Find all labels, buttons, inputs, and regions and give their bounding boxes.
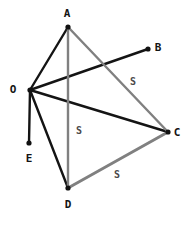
- node-dot-c: [165, 129, 170, 134]
- node-label-b: B: [155, 42, 162, 53]
- node-dot-e: [26, 140, 31, 145]
- edge-o-a: [30, 27, 68, 90]
- edge-o-d: [30, 90, 68, 188]
- node-label-d: D: [65, 199, 72, 210]
- edge-label-a-d: S: [76, 126, 82, 136]
- node-dot-o: [27, 87, 32, 92]
- edge-label-d-c: S: [114, 170, 120, 180]
- node-dot-a: [65, 24, 70, 29]
- edge-o-e: [29, 90, 30, 143]
- node-label-e: E: [26, 153, 33, 164]
- node-label-c: C: [174, 127, 181, 138]
- node-label-a: A: [64, 8, 71, 19]
- graph-diagram: ABCDEO SSS: [0, 0, 184, 225]
- node-dot-d: [65, 185, 70, 190]
- node-dot-b: [145, 46, 150, 51]
- nodes-layer: [26, 24, 170, 190]
- graph-canvas: [0, 0, 184, 225]
- edge-label-a-c: S: [130, 77, 136, 87]
- node-label-o: O: [10, 84, 17, 95]
